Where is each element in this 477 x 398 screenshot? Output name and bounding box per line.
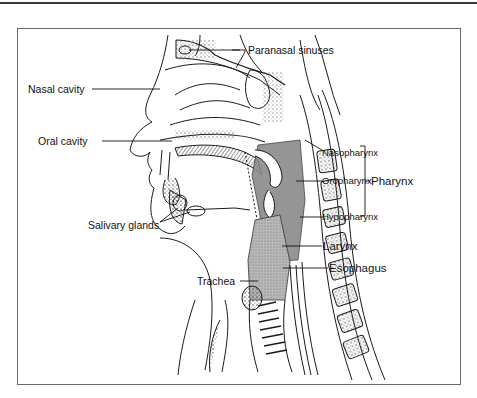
label-trachea: Trachea <box>197 275 235 287</box>
label-nasopharynx: Nasopharynx <box>322 147 378 159</box>
label-nasal-cavity: Nasal cavity <box>28 83 85 95</box>
label-esophagus: Esophagus <box>329 262 387 274</box>
label-hypopharynx: Hypopharynx <box>322 211 378 223</box>
label-oral-cavity: Oral cavity <box>38 135 88 147</box>
label-oropharynx: Oropharynx <box>322 175 372 187</box>
label-pharynx: Pharynx <box>371 175 413 187</box>
label-larynx: Larynx <box>323 240 358 252</box>
label-paranasal-sinuses: Paranasal sinuses <box>248 44 334 56</box>
head-neck-sagittal-illustration <box>0 0 477 398</box>
label-salivary-glands: Salivary glands <box>88 219 159 231</box>
